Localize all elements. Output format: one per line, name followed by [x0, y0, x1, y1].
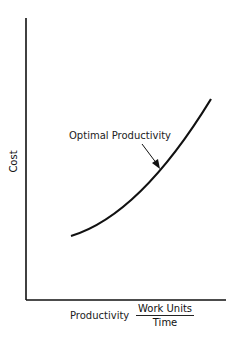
y-axis-label: Cost [8, 150, 19, 172]
annotation-arrow [142, 144, 157, 164]
optimal-productivity-label: Optimal Productivity [69, 130, 171, 141]
units-numerator: Work Units [136, 303, 194, 316]
arrowhead-icon [152, 159, 160, 169]
diagram-canvas [0, 0, 238, 340]
x-axis-units: Work Units Time [136, 303, 194, 328]
units-denominator: Time [136, 316, 194, 328]
cost-curve [71, 99, 211, 236]
x-axis-label: Productivity [70, 310, 129, 321]
